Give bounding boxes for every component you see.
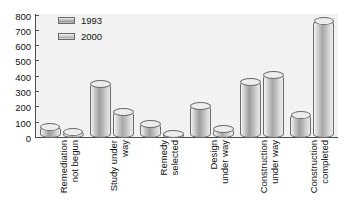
y-tick-label-300: 300 <box>0 87 31 98</box>
bar-1993-remedy-selected <box>140 123 161 138</box>
bar-2000-study-under-way <box>113 111 134 138</box>
bars-layer <box>37 14 338 138</box>
y-tick-label-400: 400 <box>0 72 31 83</box>
y-tick-label-100: 100 <box>0 118 31 129</box>
x-axis-label-construction-completed: Constructioncompleted <box>308 140 334 218</box>
bar-1993-design-under-way <box>190 105 211 138</box>
x-axis-label-remedy-selected: Remedyselected <box>158 140 184 218</box>
y-tick-label-200: 200 <box>0 102 31 113</box>
bar-1993-remediation-not-begun <box>40 126 61 138</box>
bar-1993-construction-under-way <box>240 81 261 138</box>
y-tick-label-500: 500 <box>0 56 31 67</box>
bar-2000-construction-completed <box>313 20 334 138</box>
y-tick-label-0: 0 <box>0 133 31 144</box>
bar-1993-construction-completed <box>290 114 311 138</box>
y-tick-label-600: 600 <box>0 41 31 52</box>
x-axis-label-study-under-way: Study underway <box>108 140 134 218</box>
bar-2000-design-under-way <box>213 128 234 138</box>
bar-1993-study-under-way <box>90 83 111 138</box>
x-axis-label-construction-under-way: Constructionunder way <box>258 140 284 218</box>
x-axis-label-remediation-not-begun: Remediationnot begun <box>58 140 84 218</box>
bar-2000-remedy-selected <box>163 133 184 138</box>
y-axis: 800 700 600 500 400 300 200 100 0 <box>0 0 35 218</box>
x-axis-labels: Remediationnot begunStudy underwayRemedy… <box>37 140 338 218</box>
bar-2000-construction-under-way <box>263 74 284 138</box>
bar-chart: 800 700 600 500 400 300 200 100 0 1993 2… <box>0 0 345 218</box>
y-tick-label-700: 700 <box>0 26 31 37</box>
y-tick-label-800: 800 <box>0 11 31 22</box>
x-axis-label-design-under-way: Designunder way <box>208 140 234 218</box>
bar-2000-remediation-not-begun <box>63 131 84 138</box>
